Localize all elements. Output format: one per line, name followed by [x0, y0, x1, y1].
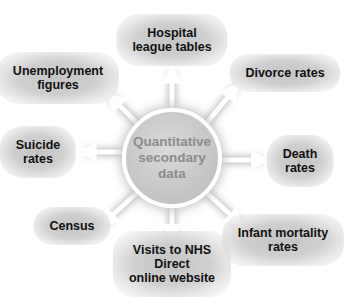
node-text: Infant mortality: [238, 226, 328, 240]
node-text: Census: [49, 219, 94, 233]
node-text: Direct: [129, 257, 215, 271]
central-node: Quantitative secondary data: [122, 108, 222, 208]
node-visits-nhs-direct: Visits to NHS Direct online website: [113, 231, 231, 297]
node-text: Divorce rates: [245, 66, 324, 80]
node-text: rates: [16, 152, 60, 166]
node-text: Death: [283, 147, 318, 161]
node-text: figures: [13, 78, 103, 92]
node-text: Visits to NHS: [129, 243, 215, 257]
arrow-to-census: [108, 192, 138, 219]
node-text: Unemployment: [13, 64, 103, 78]
arrow-to-infant: [206, 192, 235, 219]
node-text: Suicide: [16, 138, 60, 152]
central-node-line-3: data: [158, 166, 186, 182]
node-text: league tables: [132, 40, 211, 54]
arrow-to-divorce: [206, 92, 232, 124]
node-text: online website: [129, 271, 215, 285]
node-text: rates: [238, 240, 328, 254]
node-text: rates: [283, 161, 318, 175]
central-node-line-1: Quantitative: [133, 134, 211, 150]
node-death-rates: Death rates: [267, 135, 334, 187]
node-text: Hospital: [132, 26, 211, 40]
node-suicide-rates: Suicide rates: [0, 126, 76, 178]
node-infant-mortality-rates: Infant mortality rates: [222, 214, 344, 266]
node-hospital-league-tables: Hospital league tables: [116, 14, 227, 66]
arrow-to-unemployment: [115, 101, 138, 124]
node-census: Census: [33, 207, 110, 245]
node-unemployment-figures: Unemployment figures: [0, 52, 119, 104]
central-node-line-2: secondary: [138, 150, 206, 166]
node-divorce-rates: Divorce rates: [229, 54, 340, 92]
